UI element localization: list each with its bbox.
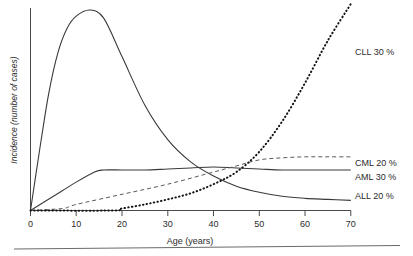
footer-divider — [14, 246, 400, 250]
x-axis-title: Age (years) — [167, 236, 214, 246]
chart-page: 0 10 20 30 40 50 60 70 Age (years) Incid… — [0, 0, 413, 256]
series-label-aml: AML 30 % — [355, 172, 396, 182]
series-label-cml: CML 20 % — [355, 158, 397, 168]
series-line-aml — [31, 167, 351, 211]
x-tick-label-0: 0 — [28, 219, 33, 229]
x-tick-label-50: 50 — [254, 219, 264, 229]
series-line-cll — [31, 4, 351, 211]
x-tick-label-10: 10 — [71, 219, 81, 229]
x-tick-label-20: 20 — [117, 219, 127, 229]
x-tick-label-70: 70 — [346, 219, 356, 229]
series-line-cml — [31, 157, 351, 211]
x-tick-label-40: 40 — [208, 219, 218, 229]
x-tick-label-30: 30 — [163, 219, 173, 229]
x-tick-label-60: 60 — [300, 219, 310, 229]
series-label-all: ALL 20 % — [355, 191, 394, 201]
y-axis-title: Incidence (number of cases) — [9, 56, 19, 163]
series-label-cll: CLL 30 % — [355, 47, 394, 57]
incidence-by-age-chart: 0 10 20 30 40 50 60 70 Age (years) Incid… — [0, 0, 413, 256]
